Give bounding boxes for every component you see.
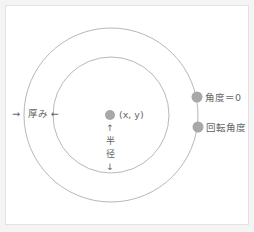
rotation-angle-label: 回転角度 xyxy=(206,122,246,133)
angle-zero-dot xyxy=(192,92,203,103)
angle-zero-label: 角度＝0 xyxy=(205,92,241,103)
thickness-left-arrow: → xyxy=(12,108,20,119)
thickness-label: 厚み xyxy=(28,108,48,119)
radius-up-arrow: ↑ xyxy=(104,122,116,134)
center-dot xyxy=(105,110,115,120)
center-label: (x, y) xyxy=(119,109,144,120)
radius-char-2: 径 xyxy=(104,148,116,160)
radius-char-1: 半 xyxy=(104,135,116,147)
thickness-right-arrow: ← xyxy=(51,108,59,119)
rotation-angle-dot xyxy=(193,122,204,133)
radius-down-arrow: ↓ xyxy=(104,161,116,173)
